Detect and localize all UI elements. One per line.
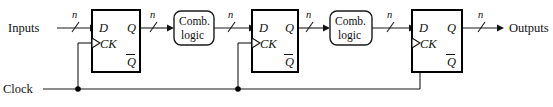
ff3-d-label: D xyxy=(418,21,428,35)
ff2-q-label: Q xyxy=(285,21,294,35)
bus-width-label: n xyxy=(306,9,311,20)
clock-junction-dot xyxy=(75,86,81,92)
wire-ff1q-to-comb1 xyxy=(140,22,174,32)
ff3-qbar-label: Q xyxy=(447,55,456,69)
wire-ff2q-to-comb2 xyxy=(298,22,330,32)
ff1-d-label: D xyxy=(98,21,108,35)
ff1-ck-label: CK xyxy=(100,37,117,51)
ff1-qbar-label: Q xyxy=(127,55,136,69)
bus-width-label: n xyxy=(228,9,233,20)
wire-comb1-to-ff2 xyxy=(214,22,256,32)
wire-comb2-to-ff3 xyxy=(372,22,416,32)
outputs-label: Outputs xyxy=(509,21,549,35)
diagram-canvas: Inputs Outputs Clock n n n n n n D Q CK … xyxy=(0,0,553,107)
comb1-line2: logic xyxy=(181,29,204,42)
clock-junction-dot xyxy=(235,86,241,92)
bus-width-label: n xyxy=(387,9,392,20)
sequential-circuit-diagram: Inputs Outputs Clock n n n n n n D Q CK … xyxy=(0,0,553,107)
bus-width-label: n xyxy=(478,9,483,20)
ff3-q-label: Q xyxy=(447,21,456,35)
clock-label: Clock xyxy=(3,82,34,96)
ff2-d-label: D xyxy=(258,21,268,35)
wire-ff3q-to-outputs xyxy=(462,22,504,32)
ff2-qbar-label: Q xyxy=(285,55,294,69)
bus-width-label: n xyxy=(150,9,155,20)
ff2-ck-label: CK xyxy=(260,37,277,51)
inputs-label: Inputs xyxy=(8,21,39,35)
ff1-q-label: Q xyxy=(127,21,136,35)
bus-width-label: n xyxy=(72,9,77,20)
comb2-line1: Comb. xyxy=(335,15,366,27)
comb2-line2: logic xyxy=(338,29,361,42)
comb1-line1: Comb. xyxy=(179,15,210,27)
ff3-ck-label: CK xyxy=(420,37,437,51)
